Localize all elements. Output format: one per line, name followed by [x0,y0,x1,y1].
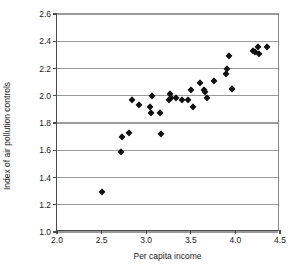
data-point [196,80,203,87]
gridline-horizontal [57,122,278,123]
y-axis-tick [53,68,57,69]
gridline-horizontal [57,231,278,232]
data-point [210,77,217,84]
y-axis-tick-label: 2.6 [39,10,51,19]
x-axis-tick-label: 3.5 [185,236,197,245]
x-axis-tick [56,230,57,234]
data-point [187,87,194,94]
y-axis-tick-label: 2.4 [39,37,51,46]
data-point [263,43,270,50]
y-axis-tick [53,150,57,151]
y-axis-tick-label: 1.6 [39,146,51,155]
scatter-chart-figure: 1.01.21.41.61.82.02.22.42.62.02.53.03.54… [0,0,296,278]
data-point [157,110,164,117]
y-axis-tick-label: 2.2 [39,64,51,73]
y-axis-tick-label: 1.4 [39,173,51,182]
x-axis-tick-label: 4.5 [274,236,286,245]
x-axis-title: Per capita income [56,252,279,261]
x-axis-tick-label: 2.5 [96,236,108,245]
data-point [225,53,232,60]
data-point [126,129,133,136]
data-point [135,102,142,109]
data-point [228,85,235,92]
x-axis-tick [235,230,236,234]
data-point [149,92,156,99]
data-point [118,133,125,140]
y-axis-title: Index of air pollution controls [0,27,14,245]
gridline-horizontal [57,41,278,42]
gridline-horizontal [57,13,278,14]
plot-area: 1.01.21.41.61.82.02.22.42.62.02.53.03.54… [56,13,279,231]
y-axis-tick [53,13,57,14]
x-axis-tick-label: 3.0 [140,236,152,245]
y-axis-tick-label: 1.0 [39,228,51,237]
gridline-horizontal [57,177,278,178]
x-axis-tick-label: 2.0 [51,236,63,245]
y-axis-tick-label: 2.0 [39,92,51,101]
y-axis-tick [53,41,57,42]
y-axis-tick-label: 1.2 [39,201,51,210]
data-point [158,130,165,137]
data-point [98,189,105,196]
y-axis-tick-label: 1.8 [39,119,51,128]
gridline-horizontal [57,150,278,151]
data-point [189,103,196,110]
x-axis-tick [146,230,147,234]
data-point [147,110,154,117]
y-axis-tick [53,122,57,123]
data-point [128,96,135,103]
x-axis-tick [279,230,280,234]
data-point [184,96,191,103]
y-axis-tick [53,95,57,96]
gridline-horizontal [57,68,278,69]
data-point [203,95,210,102]
y-axis-tick [53,204,57,205]
x-axis-tick [101,230,102,234]
y-axis-tick [53,177,57,178]
x-axis-tick-label: 4.0 [229,236,241,245]
data-point [224,65,231,72]
x-axis-tick [190,230,191,234]
gridline-horizontal [57,204,278,205]
